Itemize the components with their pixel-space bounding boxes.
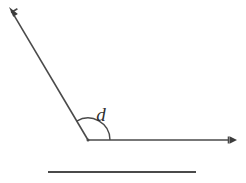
angle-diagram-figure: d bbox=[0, 0, 246, 183]
angle-label: d bbox=[96, 104, 106, 125]
horizontal-ray-arrowhead-icon bbox=[230, 136, 238, 143]
vertex-point bbox=[87, 139, 90, 142]
diagram-canvas: d bbox=[0, 0, 246, 183]
